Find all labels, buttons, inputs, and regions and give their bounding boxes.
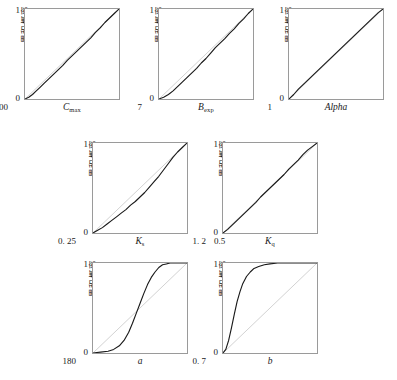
plot-frame (92, 262, 188, 354)
plot-frame (222, 142, 318, 234)
reference-diagonal-line (159, 9, 253, 99)
plot-canvas (93, 143, 187, 233)
plot-canvas (289, 9, 383, 99)
x-tick-right: 0. 25 (58, 237, 76, 246)
pp-plot-figure: 1 0 累积概率 Cmax 300 1 0 累积概率 Bexp 7 1 0 累积… (0, 0, 397, 380)
x-tick-right: 0. 7 (193, 357, 207, 366)
plot-frame (222, 262, 318, 354)
reference-diagonal-line (93, 143, 187, 233)
plot-canvas (93, 263, 187, 353)
x-tick-right: 7 (138, 103, 143, 112)
plot-canvas (159, 9, 253, 99)
x-tick-right: 1. 2 (193, 237, 207, 246)
reference-diagonal-line (223, 263, 317, 353)
plot-canvas (223, 263, 317, 353)
plot-canvas (223, 143, 317, 233)
plot-frame (158, 8, 254, 100)
y-tick-bottom: 0 (6, 94, 20, 103)
plot-frame (92, 142, 188, 234)
x-axis-variable-name: b (222, 357, 318, 367)
y-tick-bottom: 0 (270, 94, 284, 103)
x-tick-right: 180 (63, 357, 77, 366)
x-tick-right: 1 (268, 103, 273, 112)
x-axis-variable-name: Alpha (288, 103, 384, 113)
plot-frame (288, 8, 384, 100)
plot-canvas (25, 9, 119, 99)
y-tick-bottom: 0 (74, 228, 88, 237)
reference-diagonal-line (289, 9, 383, 99)
x-axis-variable-name: a (92, 357, 188, 367)
y-tick-bottom: 0 (74, 348, 88, 357)
x-tick-right: 300 (0, 103, 8, 112)
x-axis-variable-name: Ks (92, 237, 188, 247)
x-axis-variable-name: Bexp (158, 103, 254, 113)
reference-diagonal-line (93, 263, 187, 353)
y-tick-bottom: 0 (140, 94, 154, 103)
y-tick-bottom: 0 (204, 348, 218, 357)
x-axis-variable-name: Cmax (24, 103, 120, 113)
x-axis-variable-name: Kq (222, 237, 318, 247)
plot-frame (24, 8, 120, 100)
